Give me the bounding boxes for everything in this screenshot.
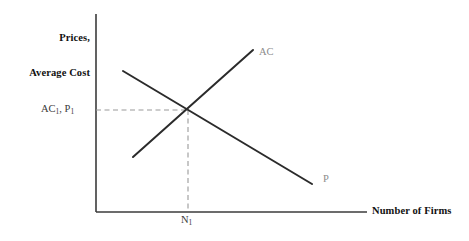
average-cost-curve-label: AC <box>259 46 274 58</box>
equilibrium-price-2-subscript: 1 <box>70 107 74 116</box>
economics-diagram: Prices, Average Cost Number of Firms AC1… <box>0 0 469 241</box>
y-axis-title-line2: Average Cost <box>4 67 90 79</box>
equilibrium-quantity-label: N1 <box>181 214 192 226</box>
y-axis-title: Prices, Average Cost <box>4 8 90 102</box>
equilibrium-price-text: AC <box>41 103 56 114</box>
equilibrium-quantity-text: N <box>181 214 189 225</box>
equilibrium-price-subscript: 1 <box>56 107 60 116</box>
price-curve <box>123 71 312 184</box>
y-axis-title-line1: Prices, <box>4 32 90 44</box>
equilibrium-price-separator: , P <box>59 103 70 114</box>
price-curve-label: P <box>323 173 329 185</box>
equilibrium-quantity-subscript: 1 <box>189 218 193 227</box>
equilibrium-price-label: AC1, P1 <box>41 103 74 115</box>
x-axis-title: Number of Firms <box>372 205 451 217</box>
average-cost-curve <box>133 50 253 157</box>
